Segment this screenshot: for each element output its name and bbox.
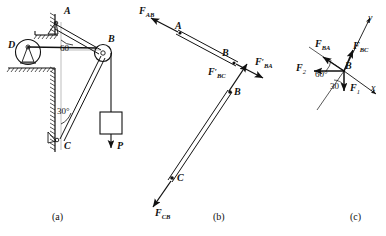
label-angle-30-at-C: 30° (57, 106, 70, 116)
force-subscript-FCB: CB (162, 213, 171, 220)
force-symbol-FAB: F (139, 5, 146, 16)
caption-panel-a: (a) (52, 211, 63, 222)
label-c-force-FBA: FBA (315, 38, 330, 51)
label-point-A: A (64, 5, 71, 16)
panel-b-group (151, 18, 263, 207)
label-fbd-point-A: A (175, 20, 182, 31)
pin-support-C (48, 132, 59, 143)
label-fbd-point-B-ab: B (222, 47, 229, 58)
label-load-P: P (117, 140, 123, 151)
label-fbd-point-C: C (177, 172, 184, 183)
label-point-B: B (108, 33, 115, 44)
pulley-D (16, 40, 41, 65)
c-force-symbol-FBA: F (315, 38, 322, 49)
c-force-subscript-F1: 1 (357, 88, 360, 95)
figure-canvas (0, 0, 386, 236)
label-c-force-FBC: FBC (353, 40, 368, 53)
label-angle-60-at-A: 60 (60, 43, 69, 53)
panel-c-group (309, 18, 376, 110)
c-force-symbol-F1: F (350, 82, 357, 93)
c-force-symbol-F2: F (296, 62, 303, 73)
force-arrow-FCB[interactable] (153, 181, 171, 207)
label-c-angle-60: 60° (315, 69, 328, 79)
label-point-C: C (64, 140, 71, 151)
label-fbd-point-B-bc: B (234, 86, 241, 97)
force-subscript-FAB: AB (146, 11, 155, 18)
bar-CB (60, 56, 105, 141)
fbd-bar-BC (168, 90, 232, 182)
force-subscript-FBC: BC (217, 72, 226, 79)
force-symbol-FBC: F (208, 66, 215, 77)
c-force-subscript-FBA: BA (322, 44, 331, 51)
construction-lines (61, 22, 100, 150)
ground-hatch-lower (7, 68, 55, 72)
label-point-D: D (8, 39, 15, 50)
label-axis-x: x (371, 82, 375, 93)
label-c-force-F2: F2 (296, 62, 306, 75)
label-c-origin-B: B (345, 60, 352, 71)
figure-root: A B C D 60 30° P FAB A B F′BA F′BC B C F… (0, 0, 386, 236)
caption-panel-c: (c) (350, 211, 361, 222)
label-force-FBA-prime: F′BA (255, 56, 273, 69)
c-force-subscript-F2: 2 (303, 68, 306, 75)
force-arrow-FAB[interactable] (151, 18, 178, 32)
c-force-symbol-FBC: F (353, 40, 360, 51)
force-subscript-FBA: BA (264, 62, 273, 69)
label-axis-y: y (368, 12, 372, 23)
label-force-FCB: FCB (155, 207, 170, 220)
force-symbol-FBA: F (255, 56, 262, 67)
panel-a-group (7, 13, 122, 152)
force-symbol-FCB: F (155, 207, 162, 218)
label-force-FBC-prime: F′BC (208, 66, 226, 79)
label-force-FAB: FAB (139, 5, 154, 18)
c-force-subscript-FBC: BC (360, 46, 369, 53)
caption-panel-b: (b) (213, 211, 225, 222)
label-c-force-F1: F1 (350, 82, 360, 95)
label-c-angle-30: 30 (330, 81, 339, 91)
